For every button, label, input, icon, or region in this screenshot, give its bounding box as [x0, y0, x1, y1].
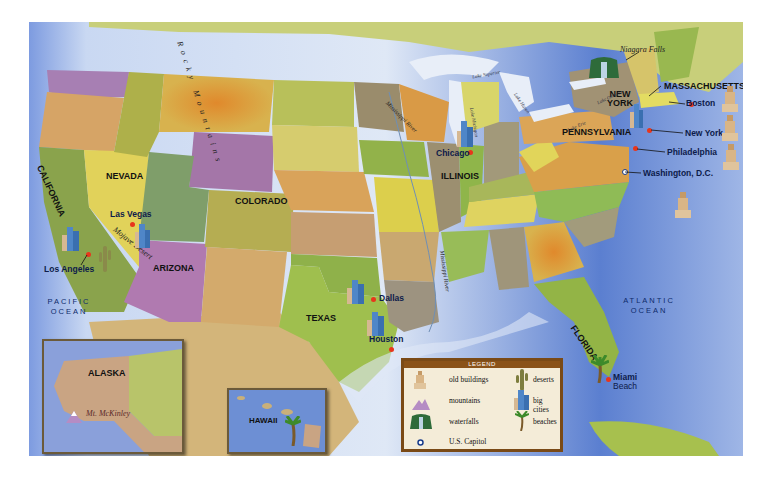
atlantic-ocean-line1: ATLANTIC [614, 296, 684, 306]
big-city-icon-dallas [347, 278, 367, 304]
legend-title: LEGEND [404, 361, 560, 368]
city-label-las-vegas: Las Vegas [110, 210, 152, 219]
city-dot-houston[interactable] [389, 347, 394, 352]
big-city-icon-chicago [457, 121, 475, 147]
city-label-houston: Houston [369, 335, 403, 344]
mountains-icon [412, 398, 430, 410]
old-building-icon-new-york [722, 115, 738, 141]
city-label-dallas: Dallas [379, 294, 404, 303]
city-label-los-angeles: Los Angeles [44, 265, 94, 274]
big-city-icon-houston [367, 310, 387, 336]
city-label-chicago: Chicago [436, 149, 470, 158]
state-label-colorado: COLORADO [235, 197, 288, 206]
old-building-icon-boston [722, 86, 738, 112]
pacific-ocean-line1: PACIFIC [39, 297, 99, 307]
alaska-map [44, 341, 182, 452]
alaska-inset: ALASKA Mt. McKinley [42, 339, 184, 454]
state-label-texas: TEXAS [306, 314, 336, 323]
pacific-ocean-line2: OCEAN [39, 307, 99, 317]
beach-palm-icon-miami [591, 355, 609, 383]
old-buildings-icon [414, 371, 426, 389]
big-city-icon-las-vegas [135, 224, 151, 248]
us-map: CALIFORNIA NEVADA ARIZONA COLORADO TEXAS… [29, 22, 743, 456]
state-label-alaska: ALASKA [88, 369, 126, 378]
old-building-icon-washington [675, 192, 691, 218]
pacific-ocean-label: PACIFIC OCEAN [39, 297, 99, 317]
city-dot-dallas[interactable] [371, 297, 376, 302]
hawaii-inset: HAWAII [227, 388, 327, 454]
legend-label-big-cities: big cities [533, 396, 560, 414]
deserts-icon [516, 369, 528, 391]
city-dot-philadelphia[interactable] [633, 146, 638, 151]
desert-cactus-icon [98, 244, 112, 272]
mountain-icon-mckinley [66, 411, 82, 423]
legend-label-deserts: deserts [533, 375, 554, 384]
legend-label-mountains: mountains [449, 396, 480, 405]
city-label-miami-beach: Miami Beach [613, 373, 637, 391]
city-label-boston: Boston [686, 99, 715, 108]
state-label-illinois: ILLINOIS [441, 172, 479, 181]
big-city-icon-new-york [630, 104, 644, 128]
atlantic-ocean-line2: OCEAN [614, 306, 684, 316]
legend-label-old-buildings: old buildings [449, 375, 488, 384]
us-capitol-icon [417, 439, 424, 446]
feature-niagara-falls: Niagara Falls [620, 45, 665, 54]
legend-label-waterfalls: waterfalls [449, 417, 479, 426]
state-label-arizona: ARIZONA [153, 264, 194, 273]
city-label-washington: Washington, D.C. [643, 169, 713, 178]
waterfall-icon-niagara [589, 56, 619, 78]
beach-palm-icon-hawaii [285, 416, 301, 446]
feature-mt-mckinley: Mt. McKinley [86, 409, 130, 418]
city-dot-new-york[interactable] [647, 128, 652, 133]
city-dot-los-angeles[interactable] [86, 252, 91, 257]
city-label-new-york: New York [685, 129, 723, 138]
legend: LEGEND old buildings deserts mountains b… [401, 358, 563, 452]
old-building-icon-philadelphia [723, 144, 739, 170]
state-label-hawaii: HAWAII [249, 417, 277, 425]
legend-label-beaches: beaches [533, 417, 557, 426]
big-cities-icon [514, 390, 530, 410]
big-city-icon-los-angeles [62, 225, 82, 251]
city-dot-washington[interactable] [622, 169, 628, 175]
atlantic-ocean-label: ATLANTIC OCEAN [614, 296, 684, 316]
state-label-nevada: NEVADA [106, 172, 143, 181]
beaches-icon [515, 411, 529, 431]
waterfalls-icon [410, 413, 432, 429]
city-label-beach: Beach [613, 382, 637, 391]
legend-label-us-capitol: U.S. Capitol [449, 437, 486, 446]
city-label-philadelphia: Philadelphia [667, 148, 717, 157]
